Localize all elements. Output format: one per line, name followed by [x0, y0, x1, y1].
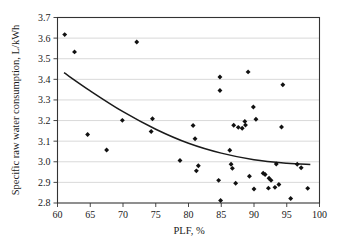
y-tick-label: 3.7 — [38, 12, 51, 23]
y-tick-label: 3.5 — [38, 53, 51, 64]
x-tick-label: 75 — [151, 209, 161, 220]
x-tick-label: 85 — [216, 209, 226, 220]
y-tick-label: 2.9 — [38, 177, 51, 188]
x-tick-label: 65 — [85, 209, 95, 220]
x-axis-tick-labels: 6065707580859095100 — [53, 209, 328, 220]
x-tick-label: 100 — [312, 209, 327, 220]
x-tick-label: 95 — [282, 209, 292, 220]
x-tick-label: 70 — [118, 209, 128, 220]
chart-figure: 2.82.93.03.13.23.33.43.53.63.7 606570758… — [0, 0, 349, 246]
y-tick-label: 3.4 — [38, 74, 51, 85]
y-axis-title: Specific raw water consumption, L/kWh — [10, 24, 21, 195]
y-tick-label: 3.0 — [38, 156, 51, 167]
x-tick-label: 60 — [53, 209, 63, 220]
x-tick-label: 90 — [249, 209, 259, 220]
y-tick-label: 3.6 — [38, 33, 51, 44]
y-tick-label: 3.3 — [38, 94, 51, 105]
x-tick-label: 80 — [184, 209, 194, 220]
y-tick-label: 2.8 — [38, 197, 51, 208]
y-tick-label: 3.2 — [38, 115, 51, 126]
x-axis-title: PLF, % — [173, 225, 205, 236]
y-tick-label: 3.1 — [38, 136, 51, 147]
scatter-plot: 2.82.93.03.13.23.33.43.53.63.7 606570758… — [0, 0, 349, 246]
